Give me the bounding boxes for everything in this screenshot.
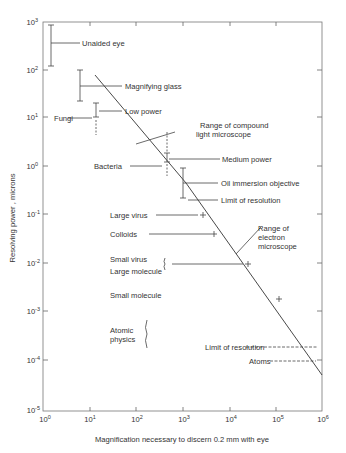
right-ticks [317, 70, 322, 360]
label-range-electron-3: microscope [258, 242, 297, 251]
svg-text:10-1: 10-1 [27, 209, 40, 219]
label-unaided-eye: Unaided eye [82, 39, 125, 48]
label-magnifying-glass: Magnifying glass [125, 82, 182, 91]
svg-text:105: 105 [272, 414, 284, 424]
label-small-molecule: Small molecule [110, 291, 162, 300]
x-tick-labels: 100 101 102 103 104 105 106 [39, 414, 329, 424]
label-limit-resolution-1: Limit of resolution [221, 196, 281, 205]
label-small-virus: Small virus [110, 255, 147, 264]
pointer-lines [149, 212, 318, 361]
svg-text:104: 104 [225, 414, 237, 424]
label-range-electron-1: Range of [258, 224, 290, 233]
left-ticks [43, 70, 48, 360]
label-colloids: Colloids [110, 230, 137, 239]
svg-text:10-4: 10-4 [27, 355, 40, 365]
x-axis-title: Magnification necessary to discern 0.2 m… [95, 435, 269, 444]
bottom-ticks [90, 407, 276, 411]
top-ticks [90, 22, 276, 26]
resolving-power-chart: 103 102 101 100 10-1 10-2 10-3 10-4 10-5… [0, 0, 346, 453]
label-limit-resolution-2: Limit of resolution [205, 343, 265, 352]
label-large-molecule: Large molecule [110, 267, 162, 276]
svg-text:10-2: 10-2 [27, 258, 40, 268]
label-fungi: Fungi [54, 114, 73, 123]
annotation-labels: Unaided eye Magnifying glass Fungi Low p… [54, 39, 300, 366]
svg-text:103: 103 [26, 17, 38, 27]
label-range-compound-1: Range of compound [200, 121, 268, 130]
label-atomic: Atomic [110, 326, 133, 335]
y-tick-labels: 103 102 101 100 10-1 10-2 10-3 10-4 10-5 [26, 17, 40, 415]
svg-text:106: 106 [317, 414, 329, 424]
label-oil-immersion: Oil immersion objective [221, 179, 300, 188]
svg-text:100: 100 [26, 161, 38, 171]
label-large-virus: Large virus [110, 211, 148, 220]
plot-frame [43, 22, 322, 411]
label-medium-power: Medium power [222, 155, 272, 164]
y-axis-title: Resolving power , microns [8, 173, 17, 262]
svg-text:10-3: 10-3 [27, 306, 40, 316]
label-range-compound-2: light microscope [196, 130, 251, 139]
label-atoms: Atoms [249, 357, 271, 366]
svg-text:102: 102 [131, 414, 143, 424]
svg-text:100: 100 [39, 414, 51, 424]
label-range-electron-2: electron [258, 233, 285, 242]
svg-text:102: 102 [26, 65, 38, 75]
svg-text:101: 101 [84, 414, 96, 424]
svg-text:10-5: 10-5 [27, 405, 40, 415]
label-bacteria: Bacteria [94, 162, 123, 171]
label-physics: physics [110, 335, 136, 344]
svg-text:103: 103 [178, 414, 190, 424]
svg-text:101: 101 [26, 112, 38, 122]
label-low-power: Low power [125, 107, 162, 116]
